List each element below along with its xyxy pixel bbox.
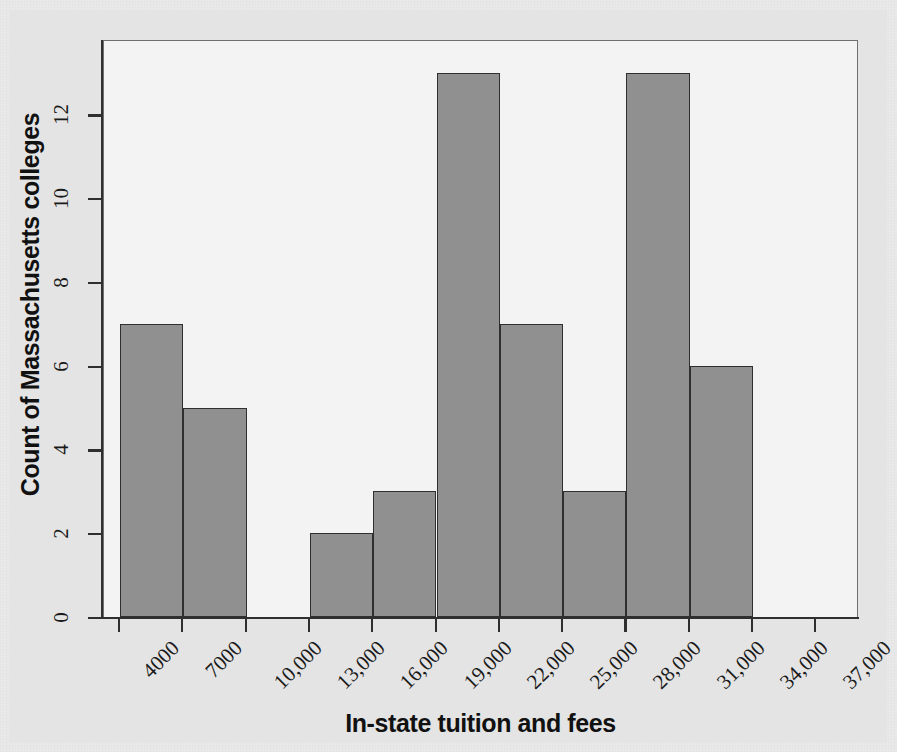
- y-axis-tick: [88, 449, 101, 451]
- x-axis-tick: [118, 619, 120, 632]
- histogram-bar: [310, 533, 373, 617]
- y-axis-title: Count of Massachusetts colleges: [16, 70, 45, 540]
- histogram-bar: [373, 491, 436, 617]
- x-axis-tick: [308, 619, 310, 632]
- histogram-bar: [626, 73, 689, 617]
- histogram-bar: [183, 408, 246, 617]
- y-axis-tick-label: 2: [49, 517, 74, 551]
- y-axis-tick-label: 6: [49, 349, 74, 383]
- x-axis-tick: [181, 619, 183, 632]
- x-axis-tick: [245, 619, 247, 632]
- x-axis-tick: [751, 619, 753, 632]
- x-axis-tick: [498, 619, 500, 632]
- y-axis-tick: [88, 114, 101, 116]
- histogram-bar: [120, 324, 183, 617]
- histogram-bar: [500, 324, 563, 617]
- y-axis-tick-label: 10: [49, 182, 74, 216]
- histogram-bar: [563, 491, 626, 617]
- histogram-bar: [690, 366, 753, 617]
- x-axis-line: [101, 617, 859, 619]
- x-axis-tick: [624, 619, 626, 632]
- x-axis-tick: [814, 619, 816, 632]
- y-axis-tick: [88, 366, 101, 368]
- bars-layer: [104, 41, 857, 617]
- histogram-figure: 024681012 Count of Massachusetts college…: [0, 0, 897, 752]
- y-axis-tick-label: 0: [49, 601, 74, 635]
- plot-panel: [103, 40, 858, 618]
- x-axis-title: In-state tuition and fees: [103, 709, 858, 738]
- y-axis-tick: [88, 282, 101, 284]
- y-axis-tick: [88, 533, 101, 535]
- y-axis-tick: [88, 198, 101, 200]
- x-axis-tick: [435, 619, 437, 632]
- x-axis-tick: [371, 619, 373, 632]
- x-axis-tick: [688, 619, 690, 632]
- y-axis-line: [101, 40, 103, 619]
- histogram-bar: [437, 73, 500, 617]
- x-axis-tick: [561, 619, 563, 632]
- y-axis-tick-label: 4: [49, 433, 74, 467]
- y-axis-tick-label: 12: [49, 98, 74, 132]
- y-axis-tick-label: 8: [49, 265, 74, 299]
- y-axis-tick: [88, 617, 101, 619]
